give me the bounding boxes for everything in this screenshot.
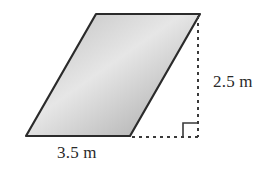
parallelogram-shape (26, 14, 200, 136)
base-label: 3.5 m (57, 143, 97, 163)
height-label: 2.5 m (213, 72, 253, 92)
right-angle-marker (183, 123, 198, 137)
